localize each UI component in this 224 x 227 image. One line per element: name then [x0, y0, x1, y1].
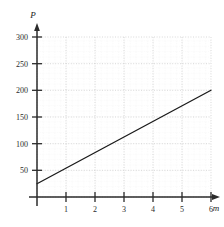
x-tick-label-1: 1 — [64, 205, 68, 214]
x-tick-label-5: 5 — [180, 205, 184, 214]
x-tick-label-4: 4 — [151, 205, 155, 214]
y-tick-label-200: 200 — [16, 86, 28, 95]
x-tick-label-2: 2 — [93, 205, 97, 214]
chart-figure: 50 100 150 200 250 300 1 2 3 4 5 6 P m — [0, 0, 224, 227]
y-tick-label-50: 50 — [20, 166, 28, 175]
x-tick-label-3: 3 — [122, 205, 126, 214]
y-tick-label-100: 100 — [16, 140, 28, 149]
y-tick-label-150: 150 — [16, 113, 28, 122]
y-tick-label-300: 300 — [16, 33, 28, 42]
y-tick-label-250: 250 — [16, 60, 28, 69]
x-axis-title: m — [213, 203, 220, 213]
y-axis-title: P — [29, 10, 36, 20]
line-chart: 50 100 150 200 250 300 1 2 3 4 5 6 P m — [0, 0, 224, 227]
